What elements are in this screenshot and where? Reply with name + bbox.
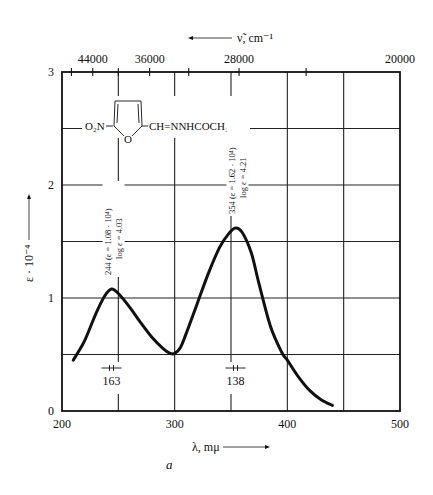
svg-text:log ε = 4.21: log ε = 4.21 bbox=[238, 157, 248, 197]
y-axis-tick-label: 0 bbox=[48, 404, 54, 418]
x-axis-title-text: λ, mμ bbox=[192, 440, 220, 454]
top-axis-tick-label: 20000 bbox=[385, 52, 415, 66]
y-axis-tick-label: 3 bbox=[48, 65, 54, 79]
top-axis-tick-label: 28000 bbox=[224, 52, 254, 66]
bandwidth-marker: 163 bbox=[98, 362, 126, 394]
chemical-structure: O₂N O CH=NNHCOCH₂CN bbox=[82, 96, 250, 145]
svg-text:138: 138 bbox=[227, 374, 245, 388]
bandwidth-marker: 138 bbox=[222, 362, 250, 394]
x-axis-tick-label: 500 bbox=[391, 417, 409, 431]
peak-annotation: 354 (ε = 1.62 · 10⁴)log ε = 4.21 bbox=[227, 120, 249, 216]
y-axis-title: ε · 10⁻⁴ bbox=[22, 194, 36, 282]
top-axis-tick-label: 44000 bbox=[78, 52, 108, 66]
svg-text:354 (ε = 1.62 · 10⁴): 354 (ε = 1.62 · 10⁴) bbox=[227, 147, 237, 214]
y-axis-tick-labels: 0123 bbox=[48, 65, 54, 418]
y-axis-title-text: ε · 10⁻⁴ bbox=[22, 244, 36, 282]
arrow-left-icon bbox=[188, 36, 193, 40]
x-axis-tick-label: 400 bbox=[278, 417, 296, 431]
formula-nitro-group: O₂N bbox=[85, 120, 105, 132]
bandwidth-markers: 163138 bbox=[98, 362, 250, 394]
ring-oxygen: O bbox=[124, 133, 132, 145]
y-axis-tick-label: 2 bbox=[48, 178, 54, 192]
top-axis-title: ν̃, cm⁻¹ bbox=[188, 31, 273, 45]
top-axis-title-text: ν̃, cm⁻¹ bbox=[237, 31, 273, 45]
x-axis-tick-label: 200 bbox=[53, 417, 71, 431]
svg-text:244 (ε = 1.08 · 10⁴): 244 (ε = 1.08 · 10⁴) bbox=[103, 208, 113, 275]
x-axis-title: λ, mμ bbox=[192, 440, 270, 454]
x-axis-tick-labels: 200300400500 bbox=[53, 417, 409, 431]
top-axis-tick-labels: 44000360002800020000 bbox=[78, 52, 415, 66]
x-axis-tick-label: 300 bbox=[166, 417, 184, 431]
peak-annotation: 244 (ε = 1.08 · 10⁴)log ε = 4.03 bbox=[103, 181, 125, 277]
y-axis-tick-label: 1 bbox=[48, 291, 54, 305]
svg-text:log ε = 4.03: log ε = 4.03 bbox=[114, 218, 124, 258]
arrow-up-icon bbox=[27, 194, 31, 199]
top-axis-tick-label: 36000 bbox=[135, 52, 165, 66]
panel-label: a bbox=[166, 457, 173, 472]
arrow-right-icon bbox=[265, 445, 270, 449]
svg-text:163: 163 bbox=[103, 374, 121, 388]
uv-spectrum-chart: 200300400500 0123 44000360002800020000 ν… bbox=[0, 0, 433, 495]
